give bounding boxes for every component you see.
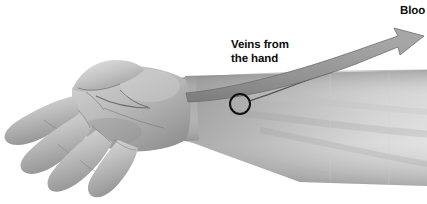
veins-label-line2: the hand bbox=[231, 52, 289, 66]
veins-label-line1: Veins from bbox=[231, 38, 289, 52]
forearm-group bbox=[185, 70, 427, 186]
anatomy-illustration bbox=[0, 0, 427, 204]
blood-label: Bloo bbox=[400, 4, 425, 18]
venipuncture-figure: Veins from the hand Bloo bbox=[0, 0, 427, 204]
veins-from-hand-label: Veins from the hand bbox=[231, 38, 289, 66]
